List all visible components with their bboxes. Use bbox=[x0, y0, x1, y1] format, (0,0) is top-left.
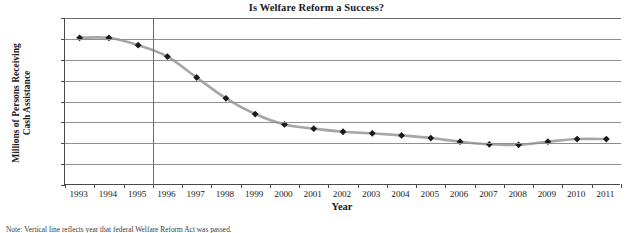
data-point-2003 bbox=[369, 130, 376, 137]
x-tick-mark-15 bbox=[504, 184, 505, 188]
x-tick-mark-11 bbox=[387, 184, 388, 188]
x-tick-mark-12 bbox=[416, 184, 417, 188]
y-axis-title-line-2: Cash Assistance bbox=[22, 13, 33, 193]
data-point-2002 bbox=[340, 128, 347, 135]
x-tick-mark-0 bbox=[65, 184, 66, 188]
chart-footnote: Note: Vertical line reflects year that f… bbox=[6, 225, 626, 233]
data-point-2001 bbox=[310, 125, 317, 132]
gridline-y-16 bbox=[65, 18, 621, 19]
x-tick-mark-8 bbox=[299, 184, 300, 188]
data-point-1994 bbox=[105, 34, 112, 41]
x-tick-label-2011: 2011 bbox=[585, 189, 625, 199]
y-tick-mark-16 bbox=[61, 18, 65, 19]
x-tick-mark-1 bbox=[94, 184, 95, 188]
x-tick-mark-9 bbox=[328, 184, 329, 188]
x-tick-mark-5 bbox=[211, 184, 212, 188]
welfare-reform-act-marker bbox=[153, 18, 154, 185]
y-tick-mark-10 bbox=[61, 81, 65, 82]
data-point-2005 bbox=[427, 135, 434, 142]
x-tick-mark-18 bbox=[592, 184, 593, 188]
y-tick-mark-8 bbox=[61, 102, 65, 103]
gridline-y-4 bbox=[65, 143, 621, 144]
x-tick-mark-7 bbox=[270, 184, 271, 188]
x-tick-mark-17 bbox=[562, 184, 563, 188]
data-point-2007 bbox=[486, 141, 493, 148]
y-tick-mark-14 bbox=[61, 39, 65, 40]
y-axis-title: Millions of Persons Receiving Cash Assis… bbox=[11, 13, 33, 193]
gridline-y-12 bbox=[65, 60, 621, 61]
x-tick-mark-10 bbox=[358, 184, 359, 188]
data-point-1993 bbox=[76, 34, 83, 41]
gridline-y-8 bbox=[65, 102, 621, 103]
gridline-y-14 bbox=[65, 39, 621, 40]
y-tick-mark-6 bbox=[61, 122, 65, 123]
y-tick-mark-4 bbox=[61, 143, 65, 144]
y-tick-mark-2 bbox=[61, 164, 65, 165]
chart-title: Is Welfare Reform a Success? bbox=[0, 2, 633, 13]
gridline-y-6 bbox=[65, 122, 621, 123]
chart-figure: Is Welfare Reform a Success? Millions of… bbox=[0, 0, 633, 233]
gridline-y-10 bbox=[65, 81, 621, 82]
data-point-2011 bbox=[603, 136, 610, 143]
x-axis-title: Year bbox=[64, 201, 620, 212]
x-tick-mark-19 bbox=[621, 184, 622, 188]
data-point-1995 bbox=[135, 42, 142, 49]
data-point-2010 bbox=[574, 136, 581, 143]
plot-area: 0246810121416 bbox=[64, 18, 620, 185]
x-tick-mark-16 bbox=[533, 184, 534, 188]
x-tick-mark-4 bbox=[182, 184, 183, 188]
y-axis-title-line-1: Millions of Persons Receiving bbox=[11, 43, 21, 163]
x-tick-mark-13 bbox=[445, 184, 446, 188]
gridline-y-2 bbox=[65, 164, 621, 165]
x-tick-mark-2 bbox=[124, 184, 125, 188]
x-tick-mark-14 bbox=[475, 184, 476, 188]
x-tick-mark-6 bbox=[241, 184, 242, 188]
y-tick-mark-12 bbox=[61, 60, 65, 61]
data-point-2004 bbox=[398, 132, 405, 139]
